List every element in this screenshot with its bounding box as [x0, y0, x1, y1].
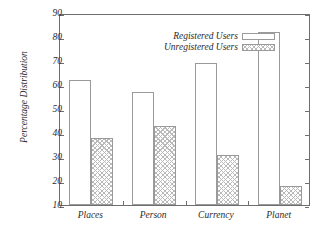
bar-planet-registered	[258, 32, 280, 205]
bar-planet-unregistered	[280, 186, 302, 205]
y-axis-title: Percentage Distribution	[19, 27, 29, 167]
x-tick-mark	[123, 201, 124, 205]
y-tick-mark	[305, 39, 309, 40]
bar-places-unregistered	[91, 138, 113, 205]
x-tick-mark	[186, 201, 187, 205]
legend-swatch-registered	[242, 33, 275, 40]
legend-item-registered: Registered Users	[164, 31, 275, 42]
y-tick-mark	[305, 183, 309, 184]
y-tick-mark	[305, 135, 309, 136]
bar-places-registered	[69, 80, 91, 205]
y-tick-label: 80	[40, 33, 62, 43]
bar-chart: Percentage Distribution Registered Users…	[0, 0, 328, 232]
y-tick-mark	[305, 111, 309, 112]
y-tick-label: 90	[40, 9, 62, 19]
y-tick-label: 60	[40, 81, 62, 91]
bar-person-unregistered	[154, 126, 176, 205]
y-tick-label: 10	[40, 201, 62, 211]
y-tick-label: 30	[40, 153, 62, 163]
y-tick-mark	[305, 63, 309, 64]
x-tick-label-places: Places	[78, 210, 103, 220]
y-tick-label: 50	[40, 105, 62, 115]
bar-person-registered	[132, 92, 154, 205]
x-tick-label-planet: Planet	[266, 210, 291, 220]
bar-currency-unregistered	[217, 155, 239, 205]
x-tick-label-currency: Currency	[198, 210, 234, 220]
legend-label-unregistered: Unregistered Users	[164, 43, 238, 53]
legend-label-registered: Registered Users	[173, 32, 238, 42]
legend: Registered Users Unregistered Users	[164, 31, 275, 53]
y-tick-mark	[305, 15, 309, 16]
legend-item-unregistered: Unregistered Users	[164, 42, 275, 53]
y-tick-mark	[305, 207, 309, 208]
plot-area: Registered Users Unregistered Users	[59, 14, 310, 206]
x-tick-label-person: Person	[140, 210, 167, 220]
y-tick-label: 70	[40, 57, 62, 67]
bar-currency-registered	[195, 63, 217, 205]
y-tick-label: 40	[40, 129, 62, 139]
y-tick-mark	[305, 87, 309, 88]
legend-swatch-unregistered	[242, 44, 275, 51]
x-tick-mark	[248, 201, 249, 205]
y-tick-label: 20	[40, 177, 62, 187]
y-tick-mark	[305, 159, 309, 160]
